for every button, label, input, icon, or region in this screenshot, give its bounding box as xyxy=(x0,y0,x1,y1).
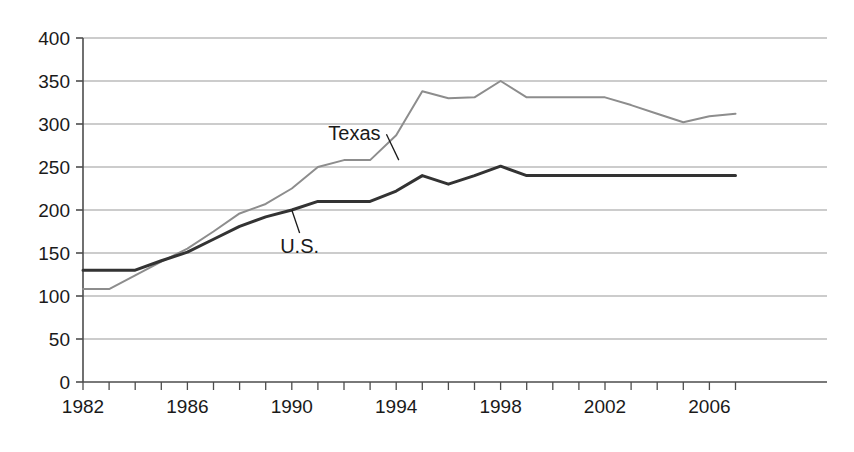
chart-canvas: 050100150200250300350400 198219861990199… xyxy=(0,0,854,452)
y-tick-label-400: 400 xyxy=(38,28,70,49)
x-tick-label-1994: 1994 xyxy=(375,396,418,417)
series-label-texas: Texas xyxy=(328,122,380,144)
y-tick-label-50: 50 xyxy=(49,329,70,350)
x-tick-label-2002: 2002 xyxy=(584,396,626,417)
y-tick-label-200: 200 xyxy=(38,200,70,221)
chart-background xyxy=(0,0,854,452)
x-tick-label-1998: 1998 xyxy=(479,396,521,417)
y-tick-label-350: 350 xyxy=(38,71,70,92)
x-tick-label-1982: 1982 xyxy=(62,396,104,417)
x-tick-label-1986: 1986 xyxy=(166,396,208,417)
line-chart: 050100150200250300350400 198219861990199… xyxy=(0,0,854,452)
y-tick-label-150: 150 xyxy=(38,243,70,264)
series-label-us: U.S. xyxy=(280,235,319,257)
x-tick-label-1990: 1990 xyxy=(271,396,313,417)
y-tick-label-100: 100 xyxy=(38,286,70,307)
x-tick-label-2006: 2006 xyxy=(688,396,730,417)
y-tick-label-300: 300 xyxy=(38,114,70,135)
y-tick-label-0: 0 xyxy=(59,372,70,393)
y-tick-label-250: 250 xyxy=(38,157,70,178)
